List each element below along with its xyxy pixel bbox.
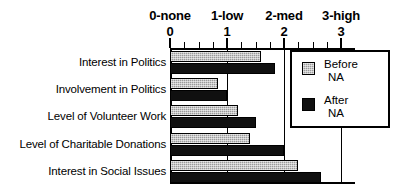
- legend-swatch-after-icon: [302, 98, 315, 111]
- x-tick-word-2: 2-med: [265, 8, 302, 24]
- x-axis-number-labels: 0 1 2 3: [0, 24, 396, 40]
- bar-before: [170, 133, 250, 144]
- bar-after: [170, 63, 275, 74]
- category-label: Level of Volunteer Work: [0, 110, 166, 123]
- bar-before: [170, 51, 261, 62]
- legend-swatch-before-icon: [302, 62, 315, 75]
- category-label: Level of Charitable Donations: [0, 138, 166, 151]
- x-tick-word-0: 0-none: [149, 8, 190, 24]
- x-tick-word-1: 1-low: [211, 8, 243, 24]
- bar-before: [170, 78, 218, 89]
- x-axis-major-tick: [169, 38, 171, 48]
- legend-entry-after: After NA: [300, 94, 390, 124]
- legend: Before NA After NA: [290, 50, 390, 128]
- category-label: Involvement in Politics: [0, 83, 166, 96]
- bar-after: [170, 145, 284, 156]
- bar-before: [170, 160, 298, 171]
- category-label: Interest in Social Issues: [0, 165, 166, 178]
- x-tick-word-3: 3-high: [322, 8, 360, 24]
- x-axis-major-tick: [340, 38, 342, 48]
- x-axis-major-tick: [283, 38, 285, 48]
- bar-after: [170, 90, 227, 101]
- bar-after: [170, 172, 321, 183]
- bar-after: [170, 117, 256, 128]
- bar-before: [170, 105, 238, 116]
- legend-label-after-line2: NA: [328, 106, 344, 120]
- x-axis-major-tick: [226, 38, 228, 48]
- category-label: Interest in Politics: [0, 56, 166, 69]
- legend-entry-before: Before NA: [300, 58, 390, 88]
- legend-label-after-line1: After: [324, 93, 348, 107]
- x-axis-word-labels: 0-none 1-low 2-med 3-high: [0, 8, 396, 24]
- legend-label-before-line1: Before: [324, 57, 358, 71]
- bar-chart: 0-none 1-low 2-med 3-high 0 1 2 3 Intere…: [0, 0, 396, 195]
- legend-label-before-line2: NA: [328, 70, 344, 84]
